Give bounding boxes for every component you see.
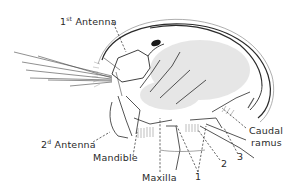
ventral-outline — [160, 150, 205, 152]
label-2d-antenna-text: Antenna — [55, 139, 96, 150]
label-limb-3: 3 — [237, 152, 243, 162]
label-limb-1: 1 — [195, 172, 201, 182]
label-maxilla: Maxilla — [142, 173, 177, 183]
ostracod-drawing — [0, 0, 292, 187]
ostracod-diagram: 1st Antenna 2d Antenna Mandible Maxilla … — [0, 0, 292, 187]
antenna1-setae — [14, 52, 122, 96]
label-1st-antenna: 1st Antenna — [60, 14, 117, 27]
label-2d-antenna: 2d Antenna — [41, 137, 96, 150]
label-caudal: Caudal — [249, 126, 283, 136]
label-limb-2: 2 — [221, 159, 227, 169]
ventral-setae — [138, 106, 234, 138]
label-1st-antenna-text: Antenna — [75, 16, 116, 27]
eye — [150, 38, 161, 47]
leader-2 — [198, 130, 220, 160]
leader-1b — [198, 126, 206, 172]
leader-caudal — [222, 108, 246, 128]
label-2d-antenna-suffix: d — [47, 138, 51, 145]
label-mandible: Mandible — [93, 153, 138, 163]
label-ramus: ramus — [251, 138, 282, 148]
label-1st-antenna-suffix: st — [66, 15, 72, 22]
